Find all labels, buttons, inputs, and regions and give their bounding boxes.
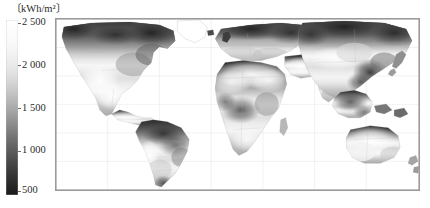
world-map-panel [55,18,420,191]
colorbar-tick-label: 1 500 [22,102,46,114]
colorbar-tick-label: 500 [22,184,38,196]
colorbar-tick-label: 1 000 [22,144,46,156]
tick-mark-icon [18,23,21,24]
tick-mark-icon [18,65,21,66]
colorbar-tick-label: 2 000 [22,59,46,71]
landmass-iceland [207,30,214,36]
tick-mark-icon [18,108,21,109]
colorbar-title: 〔kWh/m²〕 [11,2,66,15]
tick-mark-icon [18,191,21,192]
world-map-svg [56,19,419,190]
colorbar-gradient [6,20,18,195]
colorbar-tick-label: 2 500 [22,16,46,28]
tick-mark-icon [18,151,21,152]
solar-irradiation-map-figure: 〔kWh/m²〕 [0,0,430,208]
